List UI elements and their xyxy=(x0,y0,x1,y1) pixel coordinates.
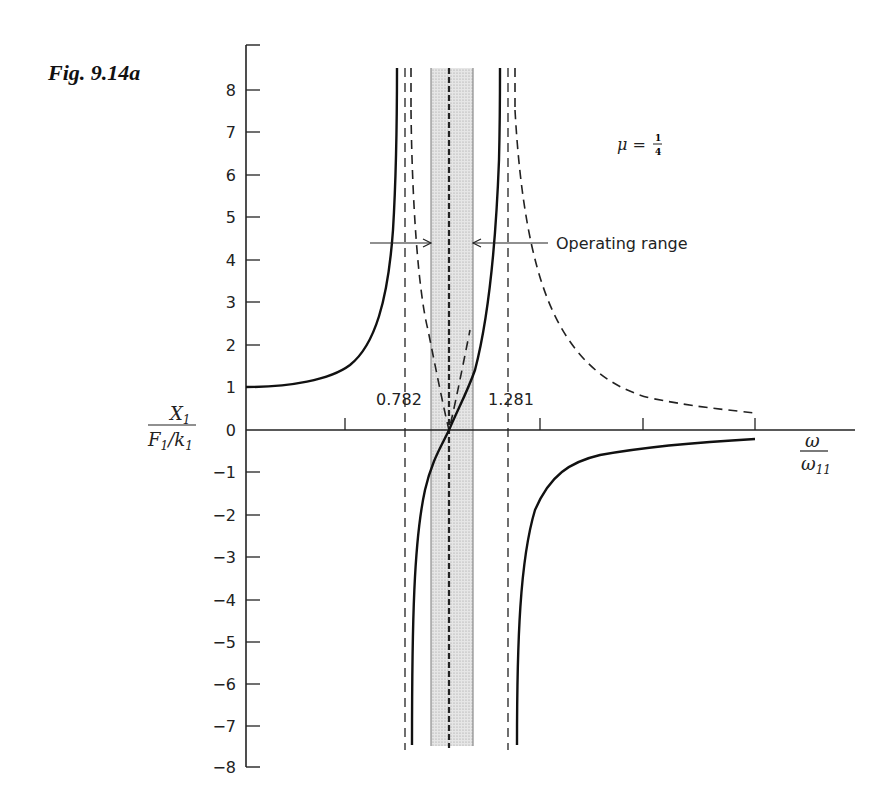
y-tick-label: 1 xyxy=(226,378,236,397)
y-tick-label: −5 xyxy=(212,633,236,652)
y-tick-label: 0 xyxy=(226,421,236,440)
y-tick-label: −2 xyxy=(212,506,236,525)
operating-range-band xyxy=(431,68,473,746)
svg-text:ω: ω xyxy=(805,430,820,451)
y-tick-label: 6 xyxy=(226,166,236,185)
y-tick-label: −1 xyxy=(212,463,236,482)
operating-range-label: Operating range xyxy=(556,234,688,253)
y-tick-label: 7 xyxy=(226,123,236,142)
svg-text:4: 4 xyxy=(655,147,661,157)
y-tick-label: 2 xyxy=(226,336,236,355)
resonance-label-low: 0.782 xyxy=(376,390,422,409)
y-axis-label: X1 F1/k1 xyxy=(147,403,196,453)
svg-text:1: 1 xyxy=(655,133,661,143)
mu-parameter-label: μ = 1 4 xyxy=(617,133,662,157)
y-tick-label: −6 xyxy=(212,675,236,694)
y-tick-label: 5 xyxy=(226,208,236,227)
y-axis xyxy=(246,45,260,767)
svg-text:μ =: μ = xyxy=(617,135,646,154)
svg-text:ω11: ω11 xyxy=(801,453,831,477)
resonance-label-high: 1.281 xyxy=(488,390,534,409)
y-tick-label: −8 xyxy=(212,758,236,777)
y-tick-label: 4 xyxy=(226,251,236,270)
y-tick-label: 8 xyxy=(226,81,236,100)
y-tick-label: −4 xyxy=(212,591,236,610)
y-tick-label: −3 xyxy=(212,548,236,567)
y-tick-label: −7 xyxy=(212,717,236,736)
svg-text:F1/k1: F1/k1 xyxy=(147,429,193,453)
x-axis xyxy=(246,418,855,430)
svg-text:X1: X1 xyxy=(168,403,190,427)
chart-canvas: 8 7 6 5 4 3 2 1 0 −1 −2 −3 −4 −5 −6 −7 −… xyxy=(0,0,891,787)
y-tick-label: 3 xyxy=(226,293,236,312)
y-tick-labels: 8 7 6 5 4 3 2 1 0 −1 −2 −3 −4 −5 −6 −7 −… xyxy=(212,81,236,777)
x-axis-label: ω ω11 xyxy=(800,430,831,477)
